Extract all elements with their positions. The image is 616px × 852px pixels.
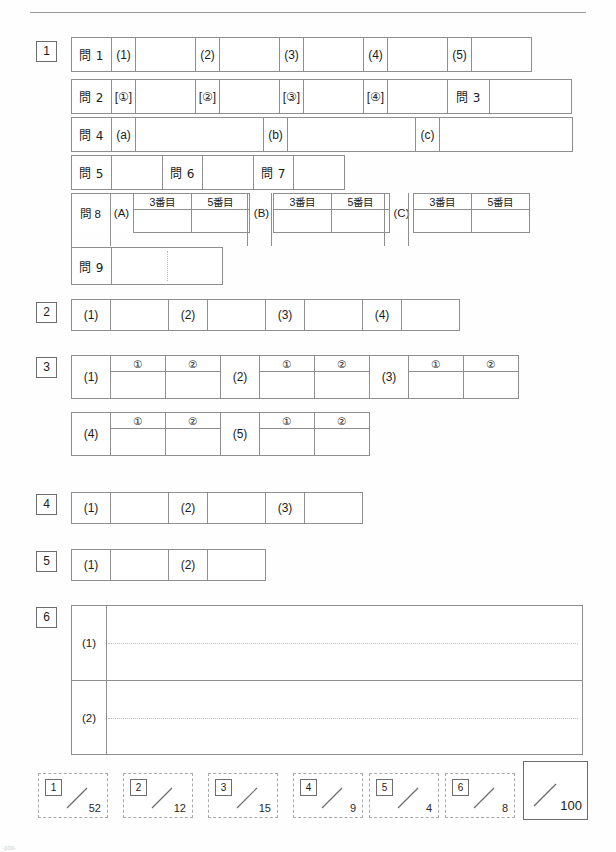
- answer-cell-s2-4[interactable]: [402, 300, 460, 331]
- total-slash-icon: [532, 782, 558, 808]
- answer-cell-s4-2[interactable]: [208, 493, 266, 524]
- score-box-3[interactable]: 3 15: [208, 773, 278, 818]
- score-box-6[interactable]: 6 8: [445, 773, 515, 818]
- subhead-s3-5-b: ②: [315, 413, 370, 429]
- answer-cell-q1-1[interactable]: [136, 38, 196, 72]
- section3-row1-table: (1) ① ② (2) ① ② (3) ① ②: [71, 355, 519, 399]
- answer-cell-s2-3[interactable]: [305, 300, 363, 331]
- row-label-q1: 問 1: [72, 38, 112, 72]
- item-label-s3-4: (4): [72, 413, 111, 456]
- answer-cell-q4-a[interactable]: [136, 118, 264, 152]
- answer-cell-q4-c[interactable]: [440, 118, 573, 152]
- answer-cell-s3-5-b[interactable]: [315, 429, 370, 456]
- row-label-q3: 問 3: [448, 80, 490, 114]
- answer-cell-s3-5-a[interactable]: [260, 429, 315, 456]
- score-box-4[interactable]: 4 9: [293, 773, 363, 818]
- answer-cell-s2-2[interactable]: [208, 300, 266, 331]
- answer-cell-s5-1[interactable]: [111, 550, 169, 581]
- top-rule: [30, 12, 586, 13]
- answer-cell-q2-2[interactable]: [220, 80, 280, 114]
- subhead-q8-C-5th: 5番目: [472, 194, 530, 210]
- subhead-s3-4-a: ①: [111, 413, 166, 429]
- answer-cell-s3-2-b[interactable]: [315, 372, 370, 399]
- answer-cell-s4-1[interactable]: [111, 493, 169, 524]
- answer-cell-s3-4-a[interactable]: [111, 429, 166, 456]
- subhead-q8-B-3rd: 3番目: [274, 194, 332, 210]
- total-score-box[interactable]: 100: [523, 761, 588, 820]
- item-label-q1-1: (1): [112, 38, 136, 72]
- section4-table: (1) (2) (3): [71, 492, 363, 524]
- answer-cell-q9[interactable]: [112, 248, 223, 285]
- score-box-5[interactable]: 5 4: [369, 773, 439, 818]
- subhead-s3-1-a: ①: [111, 356, 166, 372]
- subhead-s3-1-b: ②: [166, 356, 221, 372]
- answer-cell-q6[interactable]: [203, 156, 254, 190]
- answer-cell-q8-B-3rd[interactable]: [274, 210, 332, 233]
- row-label-q2: 問 2: [72, 80, 112, 114]
- section3-row2-table: (4) ① ② (5) ① ②: [71, 412, 370, 456]
- section-number-1: 1: [36, 41, 57, 62]
- item-label-s4-1: (1): [72, 493, 111, 524]
- score-box-1[interactable]: 1 52: [38, 773, 108, 818]
- item-label-q2-4: [④]: [364, 80, 388, 114]
- score-slash-icon: [65, 786, 89, 810]
- answer-cell-q3[interactable]: [490, 80, 572, 114]
- score-slash-icon: [472, 786, 496, 810]
- score-box-2[interactable]: 2 12: [123, 773, 193, 818]
- writing-line-s6-2[interactable]: [108, 718, 578, 719]
- score-box-1-max: 52: [89, 802, 101, 814]
- answer-cell-q8-C-5th[interactable]: [472, 210, 530, 233]
- answer-cell-q7[interactable]: [294, 156, 345, 190]
- writing-line-s6-1[interactable]: [108, 643, 578, 644]
- q8-C-label-frame: [384, 193, 409, 246]
- item-label-s5-1: (1): [72, 550, 111, 581]
- score-box-2-max: 12: [174, 802, 186, 814]
- answer-cell-q2-3[interactable]: [304, 80, 364, 114]
- answer-cell-s3-1-b[interactable]: [166, 372, 221, 399]
- subhead-s3-2-a: ①: [260, 356, 315, 372]
- item-label-s3-1: (1): [72, 356, 111, 399]
- answer-cell-q1-3[interactable]: [304, 38, 364, 72]
- score-box-3-max: 15: [259, 802, 271, 814]
- answer-cell-q4-b[interactable]: [288, 118, 416, 152]
- item-label-s3-2: (2): [221, 356, 260, 399]
- score-box-6-max: 8: [502, 802, 508, 814]
- answer-cell-s3-3-b[interactable]: [464, 372, 519, 399]
- answer-cell-s3-1-a[interactable]: [111, 372, 166, 399]
- answer-cell-s3-2-a[interactable]: [260, 372, 315, 399]
- section1-q9-table: 問 9: [71, 247, 223, 285]
- answer-cell-q2-1[interactable]: [136, 80, 196, 114]
- item-label-s6-2: (2): [72, 681, 107, 755]
- item-label-q2-1: [①]: [112, 80, 136, 114]
- score-box-5-number: 5: [376, 779, 393, 796]
- answer-cell-q8-A-5th[interactable]: [192, 210, 250, 233]
- score-box-3-number: 3: [215, 779, 232, 796]
- answer-cell-q8-A-3rd[interactable]: [134, 210, 192, 233]
- item-label-q4-b: (b): [264, 118, 288, 152]
- subhead-q8-A-5th: 5番目: [192, 194, 250, 210]
- answer-cell-q8-C-3rd[interactable]: [414, 210, 472, 233]
- answer-cell-q5[interactable]: [112, 156, 163, 190]
- answer-cell-q1-2[interactable]: [220, 38, 280, 72]
- item-label-q1-2: (2): [196, 38, 220, 72]
- answer-cell-q2-4[interactable]: [388, 80, 448, 114]
- item-label-s2-1: (1): [72, 300, 111, 331]
- answer-cell-s4-3[interactable]: [305, 493, 363, 524]
- item-label-s3-3: (3): [370, 356, 409, 399]
- section6-box: (1) (2): [71, 605, 583, 755]
- section2-table: (1) (2) (3) (4): [71, 299, 460, 331]
- subhead-q8-C-3rd: 3番目: [414, 194, 472, 210]
- answer-cell-s5-2[interactable]: [208, 550, 266, 581]
- answer-cell-q1-4[interactable]: [388, 38, 448, 72]
- answer-cell-q8-B-5th[interactable]: [332, 210, 390, 233]
- subhead-s3-3-a: ①: [409, 356, 464, 372]
- section1-q2-q3-table: 問 2 [①] [②] [③] [④] 問 3: [71, 79, 572, 114]
- answer-cell-s3-4-b[interactable]: [166, 429, 221, 456]
- answer-cell-q1-5[interactable]: [472, 38, 532, 72]
- item-label-q2-2: [②]: [196, 80, 220, 114]
- answer-cell-s2-1[interactable]: [111, 300, 169, 331]
- section1-q5-q6-q7-table: 問 5 問 6 問 7: [71, 155, 345, 190]
- answer-sheet-page: 1 問 1 (1) (2) (3) (4) (5) 問 2 [①] [②] [③…: [0, 0, 616, 852]
- section1-q1-table: 問 1 (1) (2) (3) (4) (5): [71, 37, 532, 72]
- answer-cell-s3-3-a[interactable]: [409, 372, 464, 399]
